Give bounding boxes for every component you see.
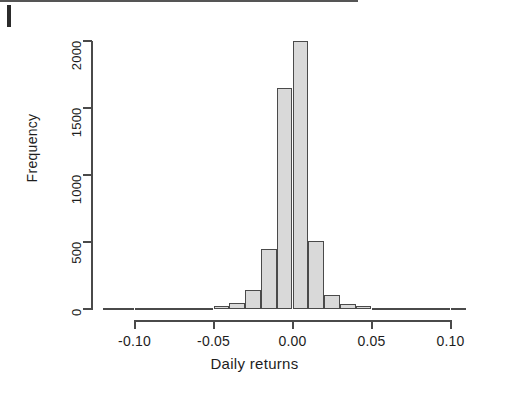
histogram-bar (356, 306, 372, 309)
histogram-bar (340, 304, 356, 309)
histogram-plot: Frequency 0500100015002000 -0.10-0.050.0… (0, 0, 509, 396)
histogram-bar (403, 308, 419, 310)
histogram-bar (103, 308, 119, 310)
histogram-bar (245, 290, 261, 309)
histogram-bar (324, 295, 340, 309)
histogram-bar (419, 308, 435, 310)
histogram-bar (435, 308, 451, 310)
histogram-bar (261, 249, 277, 309)
histogram-bar (166, 308, 182, 310)
histogram-bar (387, 308, 403, 310)
histogram-bar (150, 308, 166, 310)
figure-root: Frequency 0500100015002000 -0.10-0.050.0… (0, 0, 509, 396)
x-axis-label: Daily returns (0, 355, 509, 372)
histogram-bars (0, 0, 509, 396)
histogram-bar (451, 308, 467, 310)
histogram-bar (308, 241, 324, 309)
histogram-bar (135, 308, 151, 310)
histogram-bar (372, 308, 388, 310)
histogram-bar (119, 308, 135, 310)
histogram-bar (214, 306, 230, 309)
histogram-bar (198, 308, 214, 310)
histogram-bar (293, 41, 309, 309)
histogram-bar (229, 303, 245, 309)
histogram-bar (277, 88, 293, 309)
histogram-bar (182, 308, 198, 310)
